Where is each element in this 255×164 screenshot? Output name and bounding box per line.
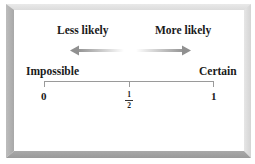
tick-label-0: 0: [41, 91, 47, 102]
more-likely-label: More likely: [155, 25, 211, 37]
more-likely-arrow-icon: [136, 46, 191, 56]
certain-label: Certain: [199, 66, 237, 78]
scale-graphics: [0, 0, 255, 164]
tick-label-half: 1 2: [125, 91, 133, 109]
impossible-label: Impossible: [26, 66, 79, 78]
less-likely-arrow-icon: [70, 46, 124, 56]
fraction-numerator: 1: [127, 90, 131, 99]
fraction-denominator: 2: [127, 101, 131, 110]
number-line: [44, 81, 214, 87]
tick-label-1: 1: [211, 91, 217, 102]
less-likely-label: Less likely: [57, 25, 108, 37]
